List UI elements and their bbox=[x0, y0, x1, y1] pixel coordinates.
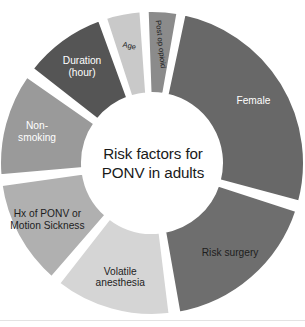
slice-label: Risk surgery bbox=[202, 246, 260, 257]
bottom-divider bbox=[0, 320, 305, 321]
slice-label: Hx of PONV orMotion Sickness bbox=[10, 208, 84, 231]
donut-center-hole bbox=[83, 94, 221, 232]
slice-label: Female bbox=[236, 95, 270, 106]
donut-chart: FemaleRisk surgeryVolatileanesthesiaHx o… bbox=[0, 0, 305, 327]
slice-label: Duration(hour) bbox=[63, 55, 102, 78]
ponv-risk-factor-donut-figure: FemaleRisk surgeryVolatileanesthesiaHx o… bbox=[0, 0, 305, 327]
